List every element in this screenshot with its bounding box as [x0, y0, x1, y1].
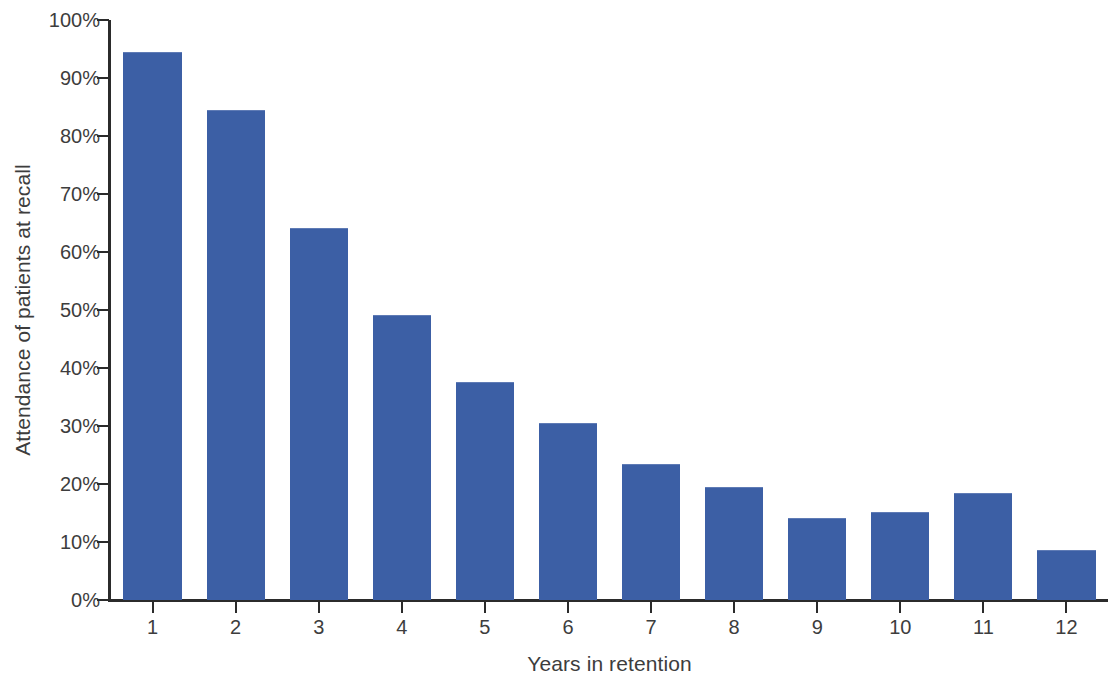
- x-tick-label: 9: [812, 616, 823, 639]
- x-tick-label: 2: [230, 616, 241, 639]
- x-tick-label: 6: [562, 616, 573, 639]
- bar: [373, 315, 431, 600]
- x-tick-mark: [899, 602, 901, 613]
- bar: [954, 493, 1012, 600]
- y-tick-label: 10%: [60, 531, 100, 554]
- y-tick-label: 70%: [60, 183, 100, 206]
- y-tick-label: 30%: [60, 415, 100, 438]
- y-tick-label: 80%: [60, 125, 100, 148]
- y-tick-label: 0%: [71, 589, 100, 612]
- x-tick-label: 4: [396, 616, 407, 639]
- x-axis-tick-labels: 123456789101112: [111, 616, 1108, 648]
- y-tick-mark: [97, 367, 109, 369]
- bar: [705, 487, 763, 600]
- y-tick-mark: [97, 77, 109, 79]
- y-tick-label: 90%: [60, 67, 100, 90]
- y-tick-mark: [97, 599, 109, 601]
- x-tick-mark: [567, 602, 569, 613]
- y-tick-label: 40%: [60, 357, 100, 380]
- bar: [788, 518, 846, 600]
- y-tick-mark: [97, 425, 109, 427]
- x-tick-mark: [235, 602, 237, 613]
- x-axis-title: Years in retention: [111, 652, 1108, 676]
- x-tick-mark: [318, 602, 320, 613]
- bar: [456, 382, 514, 600]
- bar-chart-figure: Attendance of patients at recall 0%10%20…: [0, 0, 1116, 686]
- x-tick-label: 8: [729, 616, 740, 639]
- bar: [539, 423, 597, 600]
- x-tick-label: 7: [645, 616, 656, 639]
- bar: [123, 52, 181, 600]
- x-tick-label: 1: [147, 616, 158, 639]
- bar: [207, 110, 265, 600]
- y-tick-mark: [97, 19, 109, 21]
- x-tick-label: 11: [973, 616, 994, 639]
- y-tick-mark: [97, 541, 109, 543]
- y-tick-mark: [97, 251, 109, 253]
- x-tick-label: 12: [1055, 616, 1077, 639]
- y-tick-mark: [97, 193, 109, 195]
- bar: [290, 228, 348, 600]
- bar: [622, 464, 680, 600]
- y-tick-mark: [97, 483, 109, 485]
- y-tick-label: 60%: [60, 241, 100, 264]
- y-tick-label: 20%: [60, 473, 100, 496]
- plot-area: [111, 20, 1108, 600]
- x-tick-mark: [650, 602, 652, 613]
- x-tick-mark: [1065, 602, 1067, 613]
- x-tick-mark: [484, 602, 486, 613]
- y-tick-mark: [97, 135, 109, 137]
- x-tick-label: 10: [889, 616, 911, 639]
- x-tick-mark: [733, 602, 735, 613]
- x-tick-label: 5: [479, 616, 490, 639]
- x-tick-mark: [982, 602, 984, 613]
- bar: [871, 512, 929, 600]
- x-tick-mark: [816, 602, 818, 613]
- x-tick-mark: [152, 602, 154, 613]
- y-tick-label: 50%: [60, 299, 100, 322]
- y-tick-label: 100%: [49, 9, 100, 32]
- x-tick-label: 3: [313, 616, 324, 639]
- x-tick-mark: [401, 602, 403, 613]
- y-axis-tick-labels: 0%10%20%30%40%50%60%70%80%90%100%: [24, 0, 100, 686]
- bar: [1037, 550, 1095, 600]
- y-tick-mark: [97, 309, 109, 311]
